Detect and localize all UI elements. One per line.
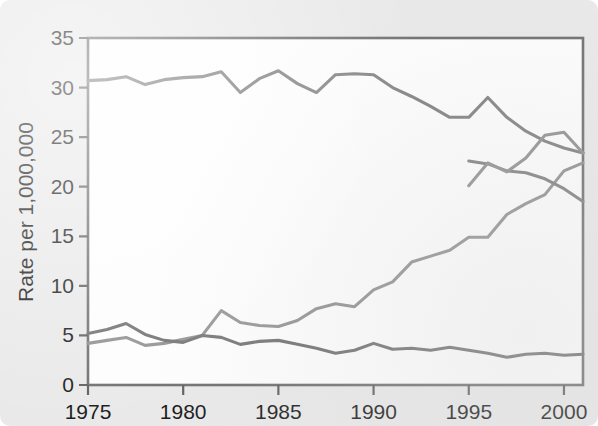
y-tick-label: 30 (51, 76, 74, 99)
x-tick-label: 1980 (160, 400, 207, 423)
y-tick-label: 35 (51, 26, 74, 49)
y-tick-label: 20 (51, 175, 74, 198)
x-axis-ticks: 197519801985199019952000 (65, 385, 588, 423)
x-tick-label: 1995 (445, 400, 492, 423)
y-axis-title: Rate per 1,000,000 (14, 122, 37, 302)
chart-figure: 05101520253035 197519801985199019952000 … (0, 0, 598, 426)
y-tick-label: 5 (62, 323, 74, 346)
x-tick-label: 1990 (350, 400, 397, 423)
line-chart: 05101520253035 197519801985199019952000 … (0, 0, 598, 426)
y-tick-label: 0 (62, 373, 74, 396)
y-tick-label: 25 (51, 125, 74, 148)
y-tick-label: 15 (51, 224, 74, 247)
x-tick-label: 2000 (541, 400, 588, 423)
x-tick-label: 1975 (65, 400, 112, 423)
y-tick-label: 10 (51, 274, 74, 297)
plot-frame (88, 38, 583, 385)
y-axis-ticks: 05101520253035 (51, 26, 88, 396)
x-tick-label: 1985 (255, 400, 302, 423)
